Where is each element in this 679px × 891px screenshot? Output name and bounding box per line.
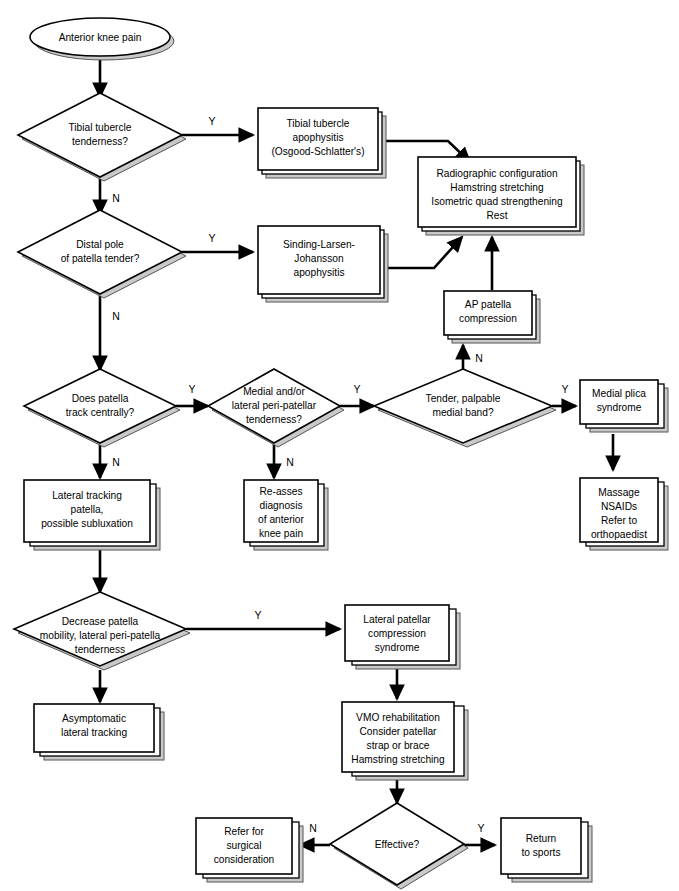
peripatellar-line-2: tenderness? [246,414,302,425]
branch-label-effective-no: N [309,822,317,834]
node-ap-patella-box: AP patella compression [444,291,540,343]
refersurgical-line-2: consideration [214,854,275,865]
massage-line-0: Massage [598,487,640,498]
vmo-line-2: strap or brace [367,740,430,751]
branch-label-tibial-no: N [112,192,120,204]
refersurgical-line-0: Refer for [224,826,264,837]
lateraltracking-line-0: Lateral tracking [52,490,122,501]
node-osgood-box: Tibial tubercle apophysitis (Osgood-Schl… [258,108,386,178]
lpcs-line-2: syndrome [375,642,420,653]
start-label: Anterior knee pain [59,32,142,43]
massage-line-3: orthopaedist [591,529,647,540]
edge-sinding-to-radiographic [388,237,462,268]
asymptomatic-line-1: lateral tracking [61,727,128,738]
distalpole-line-0: Distal pole [76,239,124,250]
node-track-centrally-decision: Does patella track centrally? [24,369,180,447]
returnsports-line-0: Return [526,833,557,844]
peripatellar-line-1: lateral peri-patellar [232,400,317,411]
branch-label-medialband-yes: Y [561,383,568,395]
branch-label-tibial-yes: Y [208,115,215,127]
tibial-label-line-0: Tibial tubercle [68,122,131,133]
node-reasses-box: Re-asses diagnosis of anterior knee pain [244,480,328,550]
branch-label-distalpole-yes: Y [208,232,215,244]
tibial-label-line-1: tenderness? [72,136,128,147]
flowchart-svg: Anterior knee pain Tibial tubercle tende… [0,0,679,891]
sinding-line-0: Sinding-Larsen- [283,239,355,250]
radiographic-line-1: Hamstring stretching [450,182,544,193]
branch-label-medialband-no: N [475,352,483,364]
distalpole-line-1: of patella tender? [61,253,140,264]
node-radiographic-box: Radiographic configuration Hamstring str… [418,157,584,235]
osgood-line-2: (Osgood-Schlatter's) [271,146,364,157]
branch-label-peripatellar-yes: Y [353,383,360,395]
node-peripatellar-decision: Medial and/or lateral peri-patellar tend… [208,369,344,447]
medialplica-line-0: Medial plica [592,388,646,399]
appatella-line-0: AP patella [465,299,512,310]
node-start: Anterior knee pain [30,18,174,60]
reasses-line-0: Re-asses [259,486,302,497]
effective-line-0: Effective? [375,839,420,850]
radiographic-line-2: Isometric quad strengthening [431,196,563,207]
vmo-line-3: Hamstring stretching [351,754,445,765]
node-distal-pole-decision: Distal pole of patella tender? [18,210,186,298]
node-vmo-box: VMO rehabilitation Consider patellar str… [342,702,468,780]
osgood-line-0: Tibial tubercle [286,118,349,129]
branch-label-trackcentral-yes: Y [188,383,195,395]
node-asymptomatic-box: Asymptomatic lateral tracking [34,704,164,760]
branch-label-peripatellar-no: N [286,456,294,468]
sinding-line-2: apophysitis [294,267,345,278]
branch-label-distalpole-no: N [112,310,120,322]
medialband-line-0: Tender, palpable [426,393,501,404]
node-massage-box: Massage NSAIDs Refer to orthopaedist [580,478,668,550]
radiographic-line-3: Rest [487,210,508,221]
node-medial-band-decision: Tender, palpable medial band? [374,369,556,447]
node-lpcs-box: Lateral patellar compression syndrome [345,605,460,669]
decrease-line-2: tenderness [75,644,125,655]
medialplica-line-1: syndrome [597,402,642,413]
reasses-line-1: diagnosis [259,500,302,511]
lpcs-line-0: Lateral patellar [363,614,431,625]
trackcentral-line-1: track centrally? [66,407,135,418]
node-decrease-mobility-decision: Decrease patella mobility, lateral peri-… [14,592,190,670]
sinding-line-1: Johansson [294,253,343,264]
asymptomatic-line-0: Asymptomatic [62,713,126,724]
reasses-line-2: of anterior [258,514,304,525]
reasses-line-3: knee pain [259,528,303,539]
decrease-line-1: mobility, lateral peri-patella [40,630,161,641]
radiographic-line-0: Radiographic configuration [436,168,557,179]
peripatellar-line-0: Medial and/or [243,386,305,397]
node-medial-plica-box: Medial plica syndrome [580,380,668,432]
appatella-line-1: compression [459,313,517,324]
massage-line-2: Refer to [601,515,638,526]
vmo-line-0: VMO rehabilitation [356,712,440,723]
decrease-line-0: Decrease patella [62,616,139,627]
lateraltracking-line-2: possible subluxation [41,518,133,529]
lateraltracking-line-1: patella, [71,504,104,515]
lpcs-line-1: compression [368,628,426,639]
vmo-line-1: Consider patellar [359,726,437,737]
node-sinding-box: Sinding-Larsen- Johansson apophysitis [258,226,388,302]
massage-line-1: NSAIDs [601,501,637,512]
flowchart-canvas: Anterior knee pain Tibial tubercle tende… [0,0,679,891]
node-return-sports-box: Return to sports [501,818,592,882]
osgood-line-1: apophysitis [293,132,344,143]
branch-label-effective-yes: Y [477,822,484,834]
returnsports-line-1: to sports [521,847,560,858]
trackcentral-line-0: Does patella [72,393,129,404]
node-lateral-tracking-box: Lateral tracking patella, possible sublu… [24,480,160,550]
branch-label-trackcentral-no: N [112,456,120,468]
node-refer-surgical-box: Refer for surgical consideration [196,818,303,882]
medialband-line-1: medial band? [432,407,494,418]
branch-label-decrease-yes: Y [254,609,261,621]
refersurgical-line-1: surgical [226,840,261,851]
node-tibial-tubercle-decision: Tibial tubercle tenderness? [18,93,186,181]
node-effective-decision: Effective? [330,803,468,889]
